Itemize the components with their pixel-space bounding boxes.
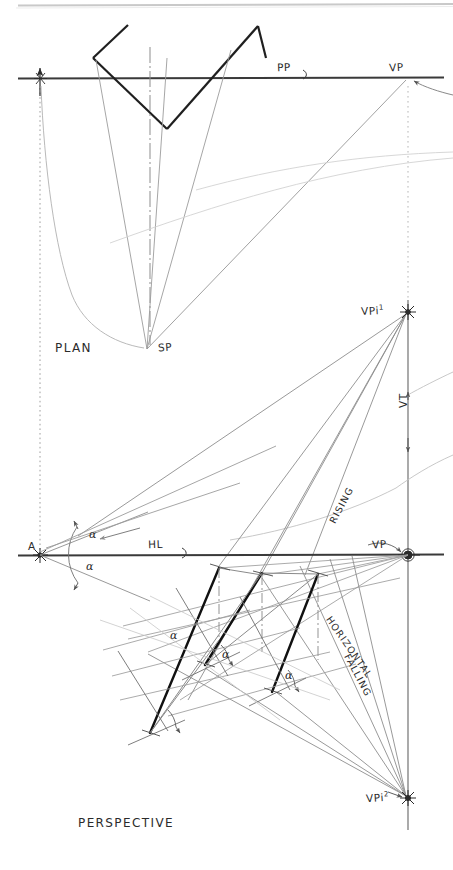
label-station-point: SP: [158, 341, 173, 354]
vpi2-marker: [388, 790, 416, 806]
label-vpi-one-text: VPi: [361, 304, 380, 317]
label-horizon-line: HL: [148, 538, 163, 551]
vpi1-marker: [400, 304, 416, 320]
label-vpi-two-sup: 2: [384, 789, 390, 798]
label-plan: PLAN: [55, 341, 92, 355]
plan-sight-rays: [96, 50, 231, 349]
member-secondary-edges: [150, 568, 318, 733]
label-vanishing-point-persp: VP: [372, 538, 387, 551]
upper-right-swing-arc: [110, 152, 453, 243]
label-alpha-lower: α: [86, 560, 94, 573]
label-alpha-member-2: α: [222, 648, 230, 661]
vp-plan-leader: [414, 81, 453, 95]
label-perspective: PERSPECTIVE: [78, 816, 174, 830]
label-vpi-one: VPi1: [361, 302, 385, 317]
sheet-top-edge: [16, 4, 453, 8]
drawing-canvas: [0, 0, 453, 870]
label-vanishing-point-plan: VP: [389, 61, 404, 74]
angle-alpha-at-a: [40, 512, 150, 601]
label-vpi-one-sup: 1: [379, 302, 385, 311]
horizon-line: [18, 555, 444, 556]
label-vpi-two: VPi2: [366, 789, 390, 804]
label-vpi-two-text: VPi: [366, 791, 385, 804]
bold-inclined-members: [150, 568, 318, 733]
label-alpha-upper: α: [89, 528, 97, 541]
label-vertical-trace: VT: [397, 393, 409, 408]
node-ticks: [142, 564, 328, 736]
label-alpha-member-1: α: [170, 629, 178, 642]
label-alpha-member-3: α: [285, 669, 293, 682]
picture-plane-line: [18, 78, 444, 79]
member-foot-ticks: [118, 588, 306, 745]
hl-leader-tick: [182, 548, 186, 558]
alpha-leader-upper: [100, 528, 140, 539]
left-vertical-projector: [34, 68, 47, 550]
plan-swing-arc-left: [41, 86, 144, 348]
label-point-a: A: [28, 540, 36, 552]
perspective-drawing-sheet: PP VP PLAN SP VPi1 VT A HL VP RISING HOR…: [0, 0, 453, 870]
rays-from-a: [40, 446, 276, 552]
label-picture-plane: PP: [277, 61, 291, 73]
